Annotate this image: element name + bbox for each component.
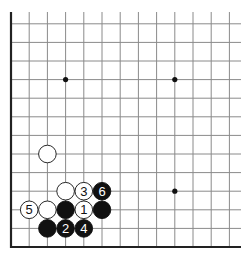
white-stone (39, 145, 57, 163)
star-point-icon (172, 189, 177, 194)
white-stone (57, 182, 75, 200)
black-stone (57, 201, 75, 219)
star-point-icon (172, 77, 177, 82)
black-stone-6: 6 (93, 182, 111, 200)
move-number-label: 2 (62, 221, 69, 236)
move-number-label: 3 (80, 184, 87, 199)
white-stone (39, 201, 57, 219)
star-point-icon (63, 77, 68, 82)
white-stone-3: 3 (75, 182, 93, 200)
white-stone-1: 1 (75, 201, 93, 219)
black-stone (39, 220, 57, 238)
move-number-label: 6 (98, 184, 105, 199)
black-stone-4: 4 (75, 220, 93, 238)
move-number-label: 4 (80, 221, 87, 236)
move-number-label: 1 (80, 202, 87, 217)
white-stone-5: 5 (20, 201, 38, 219)
go-board: 365124 (0, 0, 249, 256)
black-stone (93, 201, 111, 219)
black-stone-2: 2 (57, 220, 75, 238)
move-number-label: 5 (26, 202, 33, 217)
